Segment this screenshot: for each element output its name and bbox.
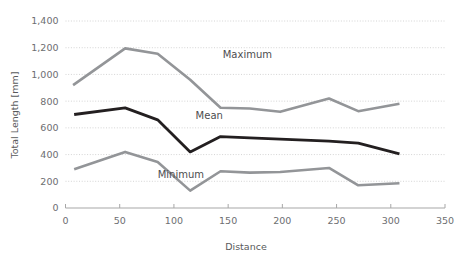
x-axis-tick-label: 100 bbox=[165, 215, 183, 226]
x-axis-tick-label: 50 bbox=[114, 215, 126, 226]
x-axis-tick-label: 0 bbox=[62, 215, 68, 226]
series-label-mean: Mean bbox=[196, 110, 223, 121]
y-axis-tick-label: 400 bbox=[40, 149, 58, 160]
y-axis-tick-label: 1,000 bbox=[31, 69, 58, 80]
y-axis-tick-label: 800 bbox=[40, 96, 58, 107]
y-axis-tick-labels: 02004006008001,0001,2001,400 bbox=[31, 15, 58, 213]
x-axis-tick-label: 350 bbox=[436, 215, 454, 226]
axes-group bbox=[66, 204, 446, 208]
y-axis-tick-label: 200 bbox=[40, 176, 58, 187]
chart-canvas: 02004006008001,0001,2001,400 05010015020… bbox=[0, 0, 465, 255]
series-label-minimum: Minimum bbox=[158, 169, 204, 180]
series-label-maximum: Maximum bbox=[223, 49, 272, 60]
x-axis-tick-label: 200 bbox=[273, 215, 291, 226]
line-chart: 02004006008001,0001,2001,400 05010015020… bbox=[0, 0, 465, 255]
y-axis-tick-label: 1,400 bbox=[31, 15, 58, 26]
y-axis-title: Total Length [mm] bbox=[9, 72, 20, 160]
y-axis-tick-label: 1,200 bbox=[31, 42, 58, 53]
x-axis-tick-label: 250 bbox=[328, 215, 346, 226]
x-axis-title: Distance bbox=[225, 241, 267, 252]
gridlines-group bbox=[66, 21, 446, 181]
x-axis-tick-labels: 050100150200250300350 bbox=[62, 215, 454, 226]
series-line-mean bbox=[74, 108, 399, 154]
x-axis-tick-label: 150 bbox=[219, 215, 237, 226]
y-axis-tick-label: 600 bbox=[40, 122, 58, 133]
y-axis-tick-label: 0 bbox=[52, 202, 58, 213]
series-line-minimum bbox=[74, 152, 399, 191]
x-axis-tick-label: 300 bbox=[382, 215, 400, 226]
data-series-group bbox=[73, 48, 399, 190]
